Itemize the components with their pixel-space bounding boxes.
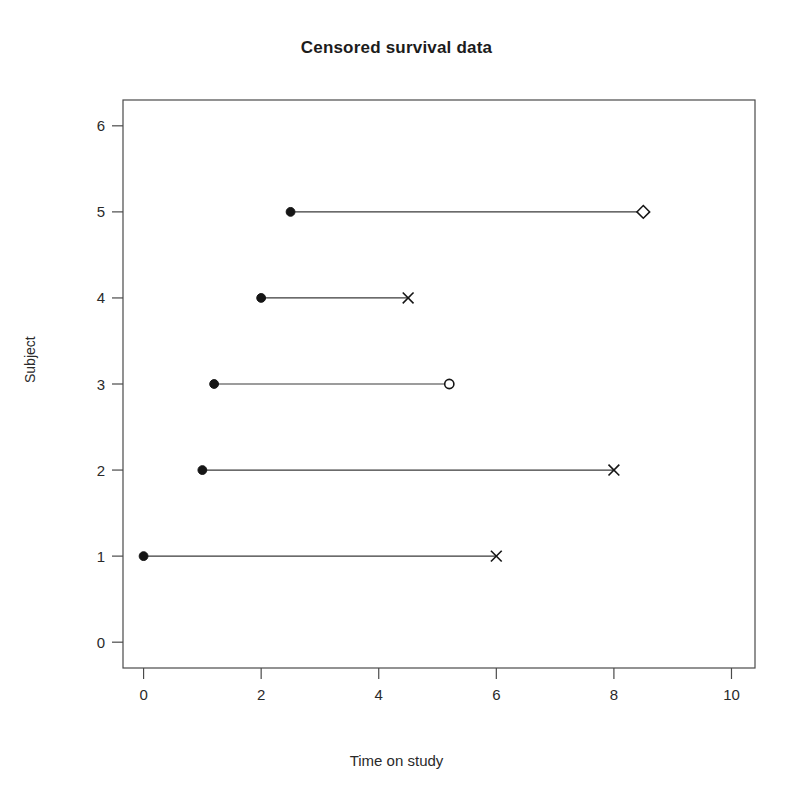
start-marker-filled-circle-icon [198,466,207,475]
start-marker-filled-circle-icon [286,207,295,216]
end-marker-open-diamond-icon [637,205,650,218]
x-tick-label: 10 [723,686,740,703]
subject-segment [257,293,414,304]
subject-segment [139,551,502,562]
x-tick-label: 0 [139,686,147,703]
y-tick-label: 4 [97,289,105,306]
subject-segment [198,465,619,476]
x-tick-label: 8 [610,686,618,703]
x-tick-label: 2 [257,686,265,703]
end-marker-open-circle-icon [445,379,454,388]
start-marker-filled-circle-icon [139,552,148,561]
start-marker-filled-circle-icon [210,380,219,389]
y-tick-label: 1 [97,548,105,565]
y-tick-label: 0 [97,634,105,651]
x-tick-label: 4 [375,686,383,703]
y-tick-label: 2 [97,462,105,479]
y-tick-label: 5 [97,203,105,220]
chart-figure: Censored survival data Subject Time on s… [0,0,793,789]
data-series-group [139,205,650,561]
x-tick-label: 6 [492,686,500,703]
start-marker-filled-circle-icon [257,294,266,303]
y-tick-label: 6 [97,117,105,134]
y-tick-label: 3 [97,376,105,393]
subject-segment [286,205,650,218]
subject-segment [210,379,454,388]
x-axis-ticks: 0246810 [139,668,739,703]
y-axis-ticks: 0123456 [97,117,123,650]
plot-area: 0246810 0123456 [0,0,793,789]
